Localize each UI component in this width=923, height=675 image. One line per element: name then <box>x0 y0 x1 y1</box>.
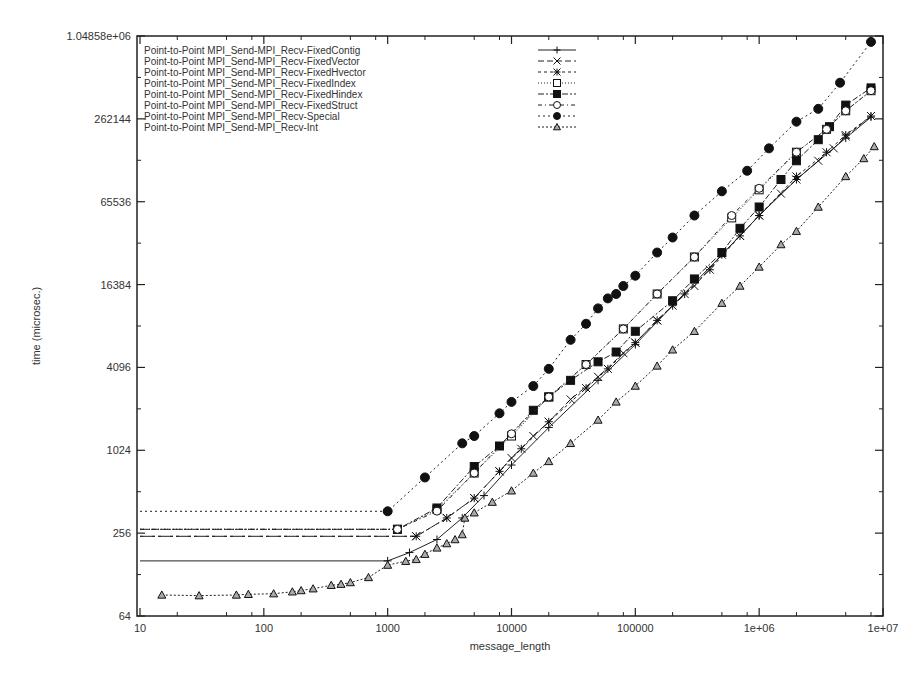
series-0 <box>140 113 875 565</box>
series-7 <box>158 143 878 599</box>
y-axis-label: time (microsec.) <box>30 287 42 365</box>
y-tick-label: 256 <box>113 527 131 539</box>
legend-label: Point-to-Point MPI_Send-MPI_Recv-FixedIn… <box>144 78 356 89</box>
x-tick-label: 1e+06 <box>744 622 775 634</box>
legend-label: Point-to-Point MPI_Send-MPI_Recv-FixedSt… <box>144 100 358 111</box>
series-2 <box>140 112 875 540</box>
x-tick-label: 100 <box>255 622 273 634</box>
legend-label: Point-to-Point MPI_Send-MPI_Recv-FixedCo… <box>144 45 360 56</box>
legend-label: Point-to-Point MPI_Send-MPI_Recv-FixedHi… <box>144 89 362 100</box>
series-4 <box>140 84 875 533</box>
x-tick-label: 10 <box>134 622 146 634</box>
y-tick-label: 1.04858e+06 <box>66 30 131 42</box>
x-tick-label: 100000 <box>617 622 654 634</box>
y-tick-label: 1024 <box>107 444 131 456</box>
y-tick-label: 65536 <box>100 196 131 208</box>
line-chart: 101001000100001000001e+061e+07 642561024… <box>0 0 923 675</box>
series-3 <box>140 87 875 534</box>
x-tick-label: 1e+07 <box>868 622 899 634</box>
series-1 <box>140 112 875 540</box>
y-tick-label: 262144 <box>94 113 131 125</box>
x-axis-label: message_length <box>470 640 551 652</box>
legend: Point-to-Point MPI_Send-MPI_Recv-FixedCo… <box>144 45 576 133</box>
series-5 <box>140 87 875 534</box>
legend-label: Point-to-Point MPI_Send-MPI_Recv-Int <box>144 122 318 133</box>
legend-label: Point-to-Point MPI_Send-MPI_Recv-FixedHv… <box>144 67 366 78</box>
y-tick-label: 4096 <box>107 361 131 373</box>
legend-label: Point-to-Point MPI_Send-MPI_Recv-FixedVe… <box>144 56 360 67</box>
y-tick-label: 64 <box>119 610 131 622</box>
x-tick-label: 10000 <box>496 622 527 634</box>
legend-label: Point-to-Point MPI_Send-MPI_Recv-Special <box>144 111 340 122</box>
x-tick-label: 1000 <box>375 622 399 634</box>
y-tick-label: 16384 <box>100 279 131 291</box>
